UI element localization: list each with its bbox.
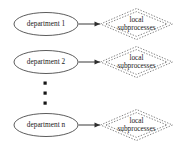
ellipsis-dot [44,92,47,95]
entity-label: department 2 [27,57,66,66]
relation-label-line-2: subprocesses [117,61,155,70]
relation-label-line-2: subprocesses [117,23,155,32]
relation-arrow-head [95,22,101,27]
diagram-row: department n local subprocesses [14,110,173,141]
diagram-row: department 1 local subprocesses [14,9,173,40]
diagram-canvas: department 1 local subprocesses departme… [0,0,177,143]
entity-label: department n [27,120,66,129]
vertical-ellipsis [44,82,47,105]
diagram-svg: department 1 local subprocesses departme… [0,0,177,143]
diagram-row: department 2 local subprocesses [14,47,173,78]
relation-arrow-head [95,60,101,65]
relation-label-line-2: subprocesses [117,124,155,133]
relation-arrow-head [95,123,101,128]
ellipsis-dot [44,102,47,105]
entity-label: department 1 [27,19,66,28]
ellipsis-dot [44,82,47,85]
